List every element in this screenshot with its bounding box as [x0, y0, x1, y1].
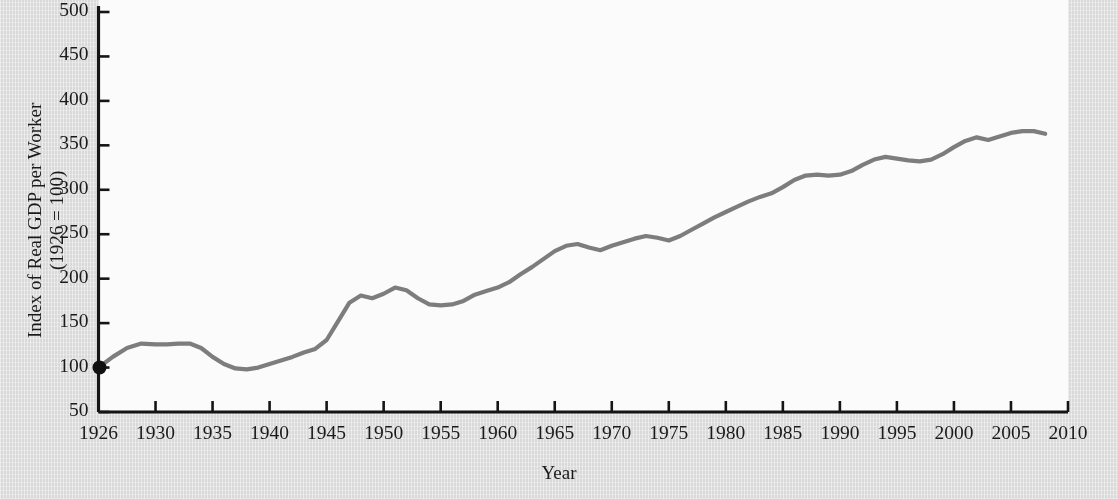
x-tick-label: 2005 [979, 422, 1043, 444]
y-tick-label: 400 [27, 88, 89, 110]
y-tick-label: 200 [27, 266, 89, 288]
x-tick-label: 1930 [124, 422, 188, 444]
x-tick-label: 1965 [523, 422, 587, 444]
x-tick-label: 1945 [295, 422, 359, 444]
y-tick-label: 450 [27, 43, 89, 65]
x-tick-label: 1980 [694, 422, 758, 444]
y-tick-label: 150 [27, 310, 89, 332]
chart-figure: Index of Real GDP per Worker(1926 = 100)… [0, 0, 1118, 499]
y-tick-label: 500 [27, 0, 89, 21]
x-tick-label: 1950 [352, 422, 416, 444]
x-tick-label: 1940 [238, 422, 302, 444]
x-tick-label: 2010 [1036, 422, 1100, 444]
y-tick-label: 100 [27, 355, 89, 377]
y-tick-label: 350 [27, 132, 89, 154]
x-tick-label: 1926 [67, 422, 131, 444]
x-tick-label: 2000 [922, 422, 986, 444]
x-tick-label: 1995 [865, 422, 929, 444]
x-tick-label: 1975 [637, 422, 701, 444]
y-tick-label: 300 [27, 177, 89, 199]
x-tick-label: 1970 [580, 422, 644, 444]
y-tick-label: 50 [27, 399, 89, 421]
x-axis-title: Year [0, 462, 1118, 484]
x-tick-label: 1960 [466, 422, 530, 444]
x-tick-label: 1985 [751, 422, 815, 444]
y-tick-label: 250 [27, 221, 89, 243]
x-tick-label: 1955 [409, 422, 473, 444]
x-tick-label: 1935 [181, 422, 245, 444]
x-tick-label: 1990 [808, 422, 872, 444]
